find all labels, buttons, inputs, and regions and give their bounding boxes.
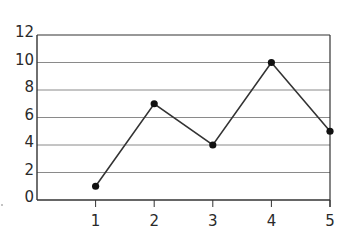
x-tick-label: 5 bbox=[325, 212, 335, 230]
data-point-marker bbox=[326, 128, 333, 135]
line-chart: 12345 024681012 bbox=[0, 0, 350, 232]
plot-frame bbox=[37, 35, 330, 207]
data-point-marker bbox=[151, 100, 158, 107]
x-tick-label: 2 bbox=[149, 212, 159, 230]
y-tick-label: 0 bbox=[24, 188, 34, 206]
data-point-marker bbox=[209, 141, 216, 148]
stray-mark bbox=[1, 204, 3, 206]
y-tick-label: 8 bbox=[24, 78, 34, 96]
data-point-marker bbox=[92, 183, 99, 190]
x-axis-labels: 12345 bbox=[91, 212, 335, 230]
y-tick-label: 4 bbox=[24, 133, 34, 151]
x-tick-label: 4 bbox=[267, 212, 277, 230]
x-tick-label: 1 bbox=[91, 212, 101, 230]
data-series bbox=[92, 59, 334, 190]
y-tick-label: 12 bbox=[15, 23, 34, 41]
y-tick-label: 6 bbox=[24, 106, 34, 124]
y-axis-labels: 024681012 bbox=[15, 23, 34, 206]
series-line bbox=[96, 63, 330, 187]
y-tick-label: 10 bbox=[15, 51, 34, 69]
data-point-marker bbox=[268, 59, 275, 66]
x-tick-label: 3 bbox=[208, 212, 218, 230]
y-tick-label: 2 bbox=[24, 161, 34, 179]
x-axis-ticks bbox=[96, 200, 330, 207]
